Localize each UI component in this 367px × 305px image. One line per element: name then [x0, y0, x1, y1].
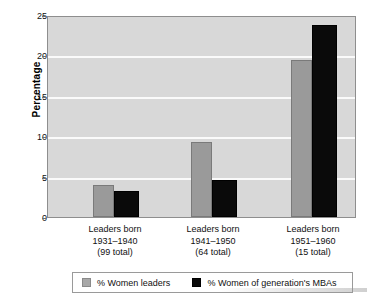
legend-item-label: % Women of generation's MBAs — [207, 278, 336, 288]
x-axis-category-label-line: 1951–1960 — [258, 236, 367, 248]
y-axis-tick-mark — [42, 56, 46, 57]
y-axis-tick-mark — [42, 97, 46, 98]
x-axis-category-label-line: (64 total) — [158, 247, 268, 259]
x-axis-category-label-line: (15 total) — [258, 247, 367, 259]
gridline — [48, 56, 355, 58]
y-axis-tick-mark — [42, 16, 46, 17]
scan-artifact-text — [5, 297, 135, 304]
y-axis-tick-mark — [42, 218, 46, 219]
x-axis-category-label-line: Leaders born — [158, 224, 268, 236]
gray-square-icon — [82, 278, 91, 287]
bar-women-leaders — [93, 185, 114, 217]
legend-item-label: % Women leaders — [97, 278, 170, 288]
legend-item[interactable]: % Women of generation's MBAs — [192, 278, 336, 288]
bar-women-mbas — [212, 180, 237, 217]
black-square-icon — [192, 278, 201, 287]
x-axis-category-label-line: Leaders born — [60, 224, 170, 236]
x-axis-category-label-line: (99 total) — [60, 247, 170, 259]
x-axis-category-label: Leaders born1951–1960(15 total) — [258, 224, 367, 259]
bar-chart-figure: Percentage 0510152025 Leaders born1931–1… — [0, 0, 367, 305]
x-axis-category-label-line: Leaders born — [258, 224, 367, 236]
x-axis-category-label-line: 1941–1950 — [158, 236, 268, 248]
bar-women-leaders — [291, 60, 312, 217]
y-axis-tick-mark — [42, 178, 46, 179]
scan-artifact-edge — [217, 288, 367, 292]
x-axis-category-label: Leaders born1931–1940(99 total) — [60, 224, 170, 259]
y-axis-tick-group: 0510152025 — [0, 0, 47, 305]
bar-women-mbas — [312, 25, 337, 217]
y-axis-tick-mark — [42, 137, 46, 138]
legend-item[interactable]: % Women leaders — [82, 278, 170, 288]
bar-women-mbas — [114, 191, 139, 217]
x-axis-category-label: Leaders born1941–1950(64 total) — [158, 224, 268, 259]
bar-women-leaders — [191, 142, 212, 217]
x-axis-category-label-line: 1931–1940 — [60, 236, 170, 248]
plot-area — [47, 16, 356, 218]
